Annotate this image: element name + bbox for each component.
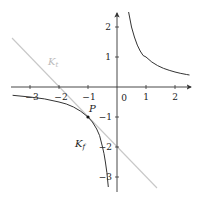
x-tick-label: 1 [143,92,149,102]
function-plot: −3 −2 −1 0 1 2 2 1 −1 −2 −3 P Kt Kf [0,0,202,201]
x-tick-label: 0 [121,93,127,103]
graph-label: Kf [74,138,86,151]
graph-right-branch [129,12,190,75]
y-tick-label: −2 [99,142,112,152]
y-tick-label: 1 [105,52,111,62]
x-tick-label: −1 [82,92,95,102]
x-tick-label: 2 [172,92,178,102]
y-tick-label: −1 [99,112,112,122]
tangent-label: Kt [47,56,58,69]
point-p-label: P [88,103,96,114]
point-p [86,115,89,118]
tangent-line [12,38,157,188]
y-tick-label: 2 [105,22,111,32]
y-tick-label: −3 [99,172,113,182]
x-tick-label: −2 [54,92,67,102]
